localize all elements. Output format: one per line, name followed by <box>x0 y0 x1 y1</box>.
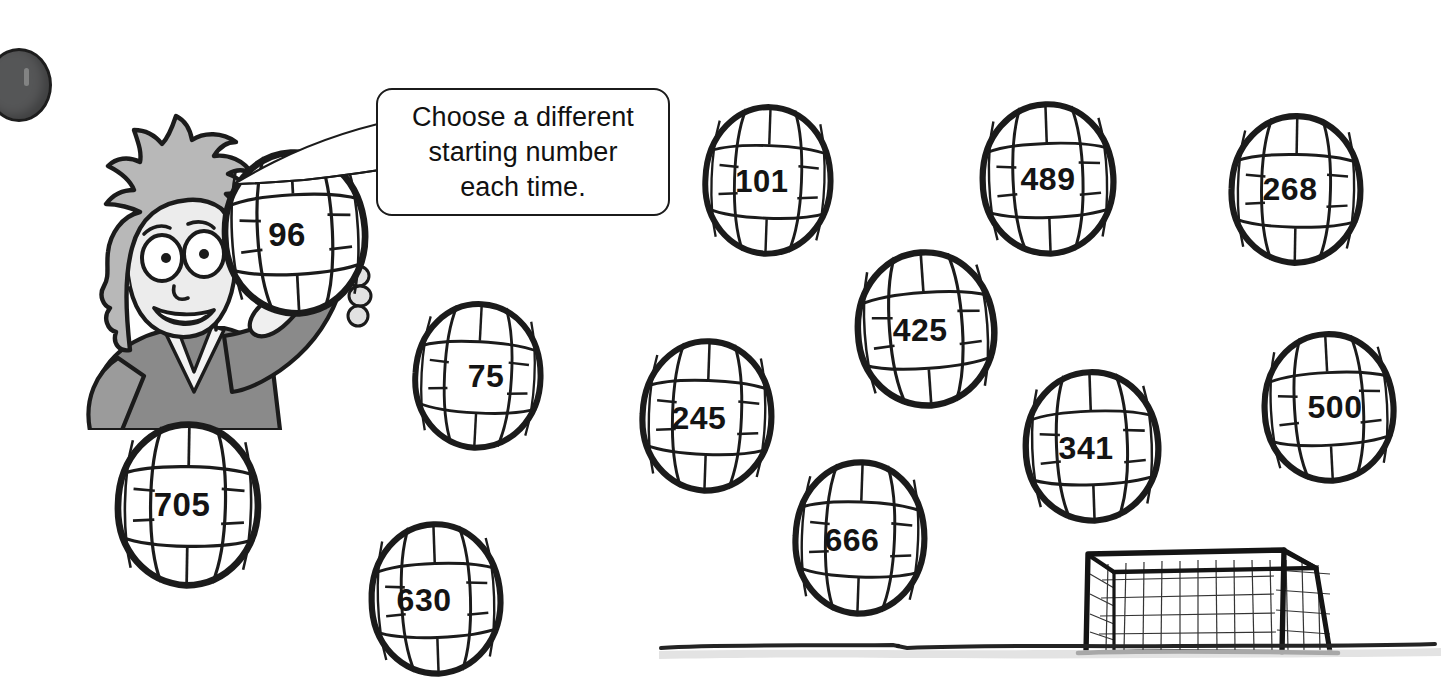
illustration-canvas: Choose a different starting number each … <box>0 0 1453 695</box>
ball-graphic <box>697 101 838 261</box>
speech-line-2: starting number <box>428 135 617 170</box>
page-corner-dot-highlight <box>24 68 29 86</box>
ball-graphic <box>1225 111 1368 268</box>
ball-graphic <box>847 243 1006 415</box>
ball-425: 425 <box>847 243 1006 415</box>
ball-341: 341 <box>1017 366 1166 528</box>
ball-268: 268 <box>1225 111 1368 268</box>
ball-graphic <box>787 456 932 621</box>
ball-graphic <box>974 98 1121 261</box>
speech-bubble: Choose a different starting number each … <box>236 88 536 218</box>
ball-500: 500 <box>1255 326 1403 488</box>
ball-489: 489 <box>974 98 1121 261</box>
ball-666: 666 <box>787 456 932 621</box>
speech-line-1: Choose a different <box>412 100 634 135</box>
ball-630: 630 <box>363 518 508 681</box>
ball-graphic <box>406 297 550 456</box>
ball-graphic <box>634 335 779 498</box>
ground-line <box>655 638 1445 668</box>
ball-75: 75 <box>406 297 550 456</box>
ball-101: 101 <box>697 101 838 261</box>
ball-graphic <box>111 419 266 592</box>
ball-graphic <box>1255 326 1403 488</box>
ball-graphic <box>363 518 508 681</box>
ball-245: 245 <box>634 335 779 498</box>
ball-705: 705 <box>111 419 266 592</box>
speech-line-3: each time. <box>460 170 586 205</box>
ball-graphic <box>1017 366 1166 528</box>
speech-bubble-text: Choose a different starting number each … <box>382 92 664 212</box>
